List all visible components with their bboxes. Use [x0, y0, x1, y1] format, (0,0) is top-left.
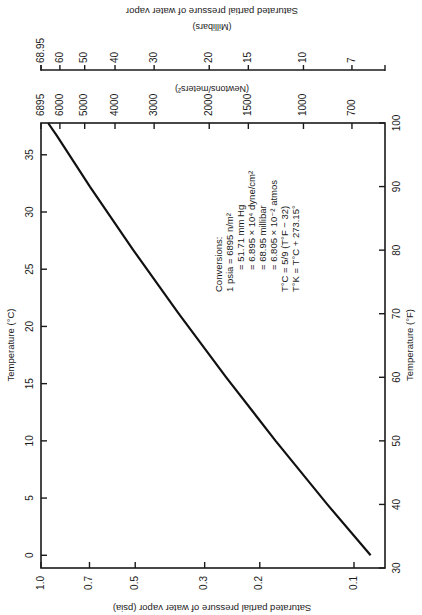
millibar-tick-label: 30 [148, 51, 159, 63]
fahrenheit-axis: 30405060708090100 [379, 114, 402, 573]
conversion-line: = 68.95 millibar [257, 205, 268, 270]
fahrenheit-tick-label: 60 [391, 371, 402, 383]
fahrenheit-tick-label: 90 [391, 181, 402, 193]
millibar-tick-label: 40 [109, 51, 120, 63]
psia-tick-label: 1.0 [35, 576, 46, 590]
celsius-tick-label: 0 [24, 552, 35, 558]
conversion-line: = 6.805 × 10⁻² atmos [268, 180, 279, 270]
newtons-tick-label: 5000 [78, 93, 89, 116]
conversion-line: T°C = 5/9 (T°F − 32) [279, 206, 290, 292]
conversion-line: 1 psia = 6895 n/m² [224, 213, 235, 292]
celsius-tick-label: 5 [24, 495, 35, 501]
celsius-tick-label: 15 [24, 378, 35, 390]
psia-tick-label: 0.3 [198, 576, 209, 590]
psia-tick-label: 0.2 [253, 576, 264, 590]
fahrenheit-tick-label: 100 [391, 114, 402, 131]
psia-axis-title: Saturated partial pressure of water vapo… [113, 603, 312, 614]
millibar-tick-label: 15 [242, 51, 253, 63]
conversion-line: T°K = T°C + 273.15° [290, 205, 301, 292]
psia-tick-label: 0.7 [83, 576, 94, 590]
vapor-pressure-chart: 05101520253035 30405060708090100 1.00.70… [0, 0, 422, 615]
millibar-axis: 68.95605040302015107 [35, 38, 385, 71]
newtons-tick-label: 2000 [203, 93, 214, 116]
celsius-axis-title: Temperature (°C) [5, 309, 16, 382]
newtons-axis-title: (Newtons/meters²) [175, 84, 249, 94]
celsius-tick-label: 20 [24, 320, 35, 332]
psia-tick-label: 0.1 [348, 576, 359, 590]
newtons-tick-label: 6895 [35, 93, 46, 116]
fahrenheit-tick-label: 70 [391, 308, 402, 320]
millibar-tick-label: 10 [297, 51, 308, 63]
millibar-axis-subtitle: (Millibars) [193, 22, 232, 32]
newtons-tick-label: 4000 [109, 93, 120, 116]
fahrenheit-axis-title: Temperature (°F) [404, 309, 415, 381]
fahrenheit-tick-label: 30 [391, 562, 402, 574]
celsius-tick-label: 35 [24, 149, 35, 161]
celsius-tick-label: 30 [24, 206, 35, 218]
newtons-tick-label: 3000 [148, 93, 159, 116]
newtons-tick-label: 1000 [297, 93, 308, 116]
millibar-tick-label: 20 [203, 51, 214, 63]
vapor-pressure-curve [48, 123, 371, 555]
fahrenheit-tick-label: 40 [391, 498, 402, 510]
millibar-tick-label: 60 [54, 51, 65, 63]
millibar-tick-label: 50 [78, 51, 89, 63]
fahrenheit-tick-label: 50 [391, 435, 402, 447]
millibar-tick-label: 7 [346, 57, 357, 63]
newtons-tick-label: 1500 [242, 93, 253, 116]
conversions-annotation: Conversions: 1 psia = 6895 n/m²= 51.71 m… [213, 171, 301, 292]
newtons-tick-label: 700 [346, 99, 357, 116]
celsius-tick-label: 25 [24, 263, 35, 275]
psia-tick-label: 0.5 [129, 576, 140, 590]
millibar-tick-label: 68.95 [35, 38, 46, 63]
conversion-line: = 51.71 mm Hg [235, 205, 246, 270]
conversion-line: = 6.895 × 10⁴ dyne/cm² [246, 171, 257, 270]
celsius-axis: 05101520253035 [24, 149, 47, 558]
psia-axis: 1.00.70.50.30.20.1 [35, 562, 359, 590]
conversions-heading: Conversions: [213, 237, 224, 292]
celsius-tick-label: 10 [24, 435, 35, 447]
newtons-tick-label: 6000 [54, 93, 65, 116]
fahrenheit-tick-label: 80 [391, 244, 402, 256]
millibar-axis-title: Saturated partial pressure of water vapo… [126, 6, 298, 17]
